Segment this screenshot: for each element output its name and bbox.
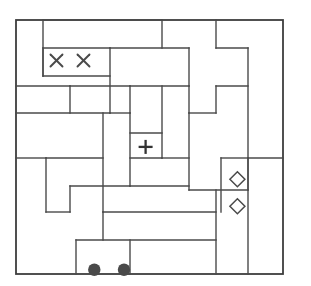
puzzle-grid-canvas[interactable] bbox=[0, 0, 311, 286]
x-mark bbox=[78, 55, 90, 67]
dot-shape bbox=[118, 264, 130, 276]
dot-mark bbox=[88, 264, 100, 276]
plus-mark bbox=[139, 140, 153, 154]
puzzle-page bbox=[0, 0, 311, 286]
dot-shape bbox=[88, 264, 100, 276]
diamond-mark bbox=[230, 172, 245, 187]
dot-mark bbox=[118, 264, 130, 276]
diamond-mark bbox=[230, 199, 245, 214]
diamond-shape bbox=[230, 172, 245, 187]
diamond-shape bbox=[230, 199, 245, 214]
x-mark bbox=[51, 55, 63, 67]
